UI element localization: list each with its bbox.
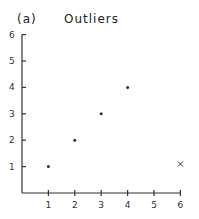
x-tick-label: 3 <box>98 200 104 210</box>
x-tick-label: 6 <box>178 200 184 210</box>
chart-title: Outliers <box>64 12 119 26</box>
y-tick-label: 2 <box>9 135 15 145</box>
data-point-dot <box>100 112 103 115</box>
y-axis-ticks: 123456 <box>9 30 26 172</box>
y-tick-label: 4 <box>9 82 15 92</box>
y-tick-label: 6 <box>9 30 15 40</box>
panel-label: (a) <box>17 12 37 26</box>
data-point-dot <box>126 86 129 89</box>
scatter-chart: (a) Outliers 123456 123456 <box>0 0 199 219</box>
x-tick-label: 2 <box>72 200 78 210</box>
data-point-dot <box>73 139 76 142</box>
y-tick-label: 3 <box>9 109 15 119</box>
x-tick-label: 4 <box>125 200 131 210</box>
y-tick-label: 1 <box>9 162 15 172</box>
outlier-x-marker <box>178 161 183 166</box>
data-point-dot <box>47 165 50 168</box>
x-tick-label: 1 <box>46 200 52 210</box>
x-tick-label: 5 <box>151 200 157 210</box>
y-tick-label: 5 <box>9 56 15 66</box>
data-points <box>47 86 183 168</box>
